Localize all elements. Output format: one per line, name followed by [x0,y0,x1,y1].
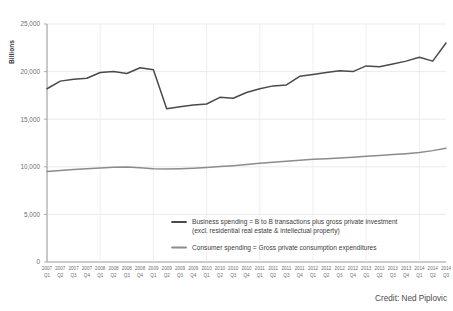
x-tick-year: 2008 [95,266,106,271]
x-tick-year: 2008 [122,266,133,271]
x-tick-year: 2012 [308,266,319,271]
x-tick-quarter: Q2 [430,273,437,278]
x-tick-year: 2014 [414,266,425,271]
x-tick-year: 2013 [401,266,412,271]
y-tick-label: 0 [36,258,40,265]
x-tick-quarter: Q1 [257,273,264,278]
x-tick-year: 2009 [162,266,173,271]
x-tick-year: 2013 [374,266,385,271]
x-tick-year: 2008 [135,266,146,271]
x-tick-quarter: Q4 [137,273,144,278]
x-tick-quarter: Q3 [177,273,184,278]
x-tick-quarter: Q1 [44,273,51,278]
x-tick-year: 2011 [268,266,278,271]
y-tick-label: 15,000 [20,116,40,123]
x-tick-quarter: Q3 [124,273,131,278]
y-axis-label: Billions [8,40,15,64]
x-tick-quarter: Q3 [283,273,290,278]
x-tick-year: 2014 [441,266,452,271]
legend-label-consumer-spending: Consumer spending = Gross private consum… [192,244,377,252]
credit-label: Credit: Ned Piplovic [375,294,447,303]
x-tick-quarter: Q1 [204,273,211,278]
x-tick-year: 2009 [148,266,159,271]
y-tick-label: 10,000 [20,163,40,170]
x-tick-quarter: Q4 [84,273,91,278]
x-tick-year: 2010 [228,266,239,271]
x-tick-year: 2007 [82,266,93,271]
x-tick-quarter: Q1 [150,273,157,278]
x-tick-year: 2012 [348,266,359,271]
x-tick-year: 2012 [321,266,332,271]
x-tick-quarter: Q1 [363,273,370,278]
x-tick-quarter: Q2 [270,273,277,278]
x-tick-quarter: Q4 [297,273,304,278]
x-tick-year: 2013 [388,266,399,271]
x-tick-quarter: Q1 [416,273,423,278]
x-tick-year: 2007 [42,266,53,271]
x-tick-quarter: Q2 [217,273,224,278]
y-tick-label: 20,000 [20,68,40,75]
x-tick-year: 2009 [188,266,199,271]
x-tick-year: 2010 [201,266,212,271]
y-tick-label: 5,000 [24,211,40,218]
x-tick-year: 2011 [295,266,305,271]
y-tick-label: 25,000 [20,20,40,27]
x-tick-quarter: Q3 [230,273,237,278]
x-tick-quarter: Q3 [71,273,78,278]
x-tick-quarter: Q2 [376,273,383,278]
line-chart: 05,00010,00015,00020,00025,000 2007Q1200… [0,0,453,311]
x-tick-year: 2007 [68,266,79,271]
x-tick-year: 2012 [334,266,345,271]
chart-container: 05,00010,00015,00020,00025,000 2007Q1200… [0,0,453,311]
x-tick-quarter: Q2 [164,273,171,278]
x-tick-quarter: Q3 [390,273,397,278]
x-tick-year: 2009 [175,266,186,271]
legend-label-business-spending: Business spending = B to B transactions … [192,218,398,226]
x-tick-year: 2011 [255,266,265,271]
x-tick-quarter: Q1 [97,273,104,278]
x-tick-quarter: Q4 [403,273,410,278]
x-tick-quarter: Q3 [337,273,344,278]
legend-sublabel-business-spending: (excl. residential real estate & intelle… [192,227,340,235]
x-tick-quarter: Q4 [190,273,197,278]
x-tick-year: 2011 [281,266,291,271]
x-tick-quarter: Q4 [243,273,250,278]
x-tick-quarter: Q3 [443,273,450,278]
x-tick-quarter: Q2 [110,273,117,278]
x-tick-quarter: Q2 [323,273,330,278]
x-tick-year: 2007 [55,266,66,271]
x-tick-year: 2008 [108,266,119,271]
x-tick-year: 2010 [215,266,226,271]
x-tick-year: 2013 [361,266,372,271]
x-tick-year: 2010 [241,266,252,271]
x-tick-year: 2014 [428,266,439,271]
x-tick-quarter: Q1 [310,273,317,278]
x-tick-quarter: Q2 [57,273,64,278]
x-tick-quarter: Q4 [350,273,357,278]
